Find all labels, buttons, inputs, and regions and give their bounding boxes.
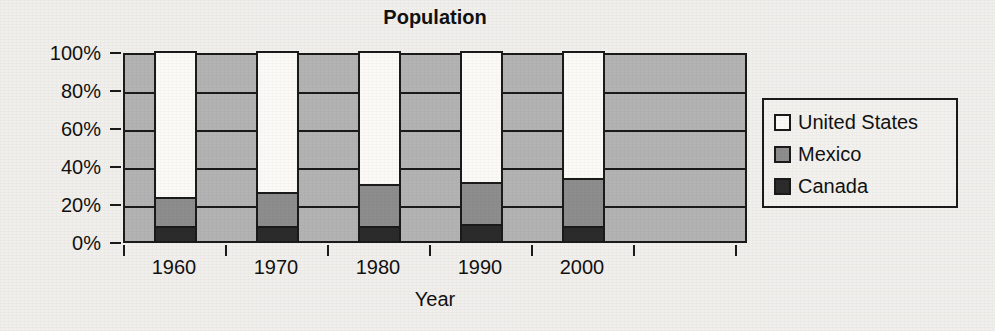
bar-group-1970[interactable] <box>256 51 299 241</box>
gridline <box>125 92 745 94</box>
y-tick-mark <box>110 204 121 206</box>
chart-title: Population <box>123 6 747 29</box>
x-tick-mark <box>327 245 329 256</box>
y-tick-mark <box>110 166 121 168</box>
bar-group-1990[interactable] <box>460 51 503 241</box>
x-tick-label-1970: 1970 <box>225 256 327 279</box>
x-tick-label-1990: 1990 <box>429 256 531 279</box>
y-tick-label: 20% <box>61 194 101 217</box>
x-axis-title: Year <box>123 288 747 311</box>
y-tick-label: 100% <box>50 42 101 65</box>
y-tick-mark <box>110 242 121 244</box>
y-tick-label: 0% <box>72 232 101 255</box>
x-tick-mark <box>123 245 125 256</box>
x-tick-label-1980: 1980 <box>327 256 429 279</box>
bar-segment-united-states[interactable] <box>562 51 605 178</box>
bar-segment-united-states[interactable] <box>256 51 299 192</box>
x-tick-mark <box>735 245 737 256</box>
legend-label: Canada <box>798 176 868 196</box>
white-swatch-icon <box>774 114 791 131</box>
bar-segment-canada[interactable] <box>154 226 197 241</box>
gray-swatch-icon <box>774 146 791 163</box>
legend-item-canada[interactable]: Canada <box>774 170 956 202</box>
x-tick-label-2000: 2000 <box>531 256 633 279</box>
bar-segment-united-states[interactable] <box>460 51 503 182</box>
x-tick-mark <box>225 245 227 256</box>
x-tick-label-1960: 1960 <box>123 256 225 279</box>
bar-segment-canada[interactable] <box>256 226 299 241</box>
bar-segment-united-states[interactable] <box>154 51 197 197</box>
legend-item-united-states[interactable]: United States <box>774 106 956 138</box>
bar-segment-mexico[interactable] <box>358 184 401 226</box>
y-tick-mark <box>110 90 121 92</box>
bar-segment-canada[interactable] <box>460 224 503 241</box>
gridline <box>125 168 745 170</box>
legend-item-mexico[interactable]: Mexico <box>774 138 956 170</box>
gridline <box>125 206 745 208</box>
y-tick-label: 40% <box>61 156 101 179</box>
y-tick-label: 80% <box>61 80 101 103</box>
bar-group-1960[interactable] <box>154 51 197 241</box>
bar-group-1980[interactable] <box>358 51 401 241</box>
chart-legend: United StatesMexicoCanada <box>762 98 958 208</box>
bar-segment-mexico[interactable] <box>256 192 299 226</box>
x-tick-mark <box>633 245 635 256</box>
bar-segment-canada[interactable] <box>562 226 605 241</box>
bar-segment-united-states[interactable] <box>358 51 401 184</box>
gridline <box>125 130 745 132</box>
population-stacked-bar-chart: Population 0%20%40%60%80%100% Year Unite… <box>0 0 995 331</box>
legend-label: United States <box>798 112 918 132</box>
bar-segment-canada[interactable] <box>358 226 401 241</box>
bar-group-2000[interactable] <box>562 51 605 241</box>
y-tick-mark <box>110 128 121 130</box>
x-tick-mark <box>429 245 431 256</box>
legend-label: Mexico <box>798 144 861 164</box>
x-tick-mark <box>531 245 533 256</box>
dark-swatch-icon <box>774 178 791 195</box>
y-tick-label: 60% <box>61 118 101 141</box>
y-axis: 0%20%40%60%80%100% <box>0 0 123 331</box>
bar-segment-mexico[interactable] <box>562 178 605 226</box>
bar-segment-mexico[interactable] <box>154 197 197 226</box>
bar-segment-mexico[interactable] <box>460 182 503 224</box>
y-tick-mark <box>110 52 121 54</box>
plot-area <box>123 53 747 243</box>
